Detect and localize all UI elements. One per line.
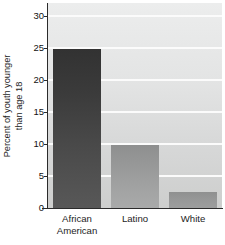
y-tick-label: 0 (20, 203, 44, 213)
x-tick-label-line: American (48, 225, 106, 237)
y-axis-tick-labels: 0 5 10 15 20 25 30 (20, 0, 44, 245)
gridline (48, 15, 222, 16)
x-tick-label-african-american: African American (48, 213, 106, 238)
bar-white (169, 192, 218, 208)
bar-latino (111, 145, 160, 208)
y-tick-label: 30 (20, 11, 44, 21)
x-tick-label-line: White (164, 213, 222, 225)
bar-african-american (53, 49, 102, 208)
y-tick-label: 20 (20, 75, 44, 85)
y-tick-label: 10 (20, 139, 44, 149)
x-tick-label-line: African (48, 213, 106, 225)
plot-area (48, 3, 222, 208)
bar-chart-figure: Percent of youth younger than age 18 0 5… (0, 0, 225, 245)
y-tick-label: 25 (20, 43, 44, 53)
y-axis-label-line-1: Percent of youth younger (2, 55, 14, 158)
y-tick-label: 15 (20, 107, 44, 117)
y-axis-line (47, 3, 48, 209)
x-tick-label-line: Latino (106, 213, 164, 225)
x-tick-label-latino: Latino (106, 213, 164, 225)
y-tick-label: 5 (20, 171, 44, 181)
x-tick-label-white: White (164, 213, 222, 225)
x-axis-line (42, 208, 223, 209)
